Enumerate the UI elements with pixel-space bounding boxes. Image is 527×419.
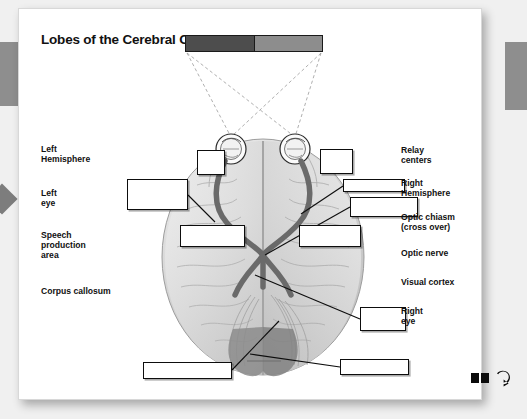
label-left-hemisphere: Left Hemisphere (41, 144, 90, 164)
label-right-eye: Right eye (401, 306, 423, 326)
drop-box-2[interactable] (320, 149, 353, 174)
drop-box-4[interactable] (343, 179, 405, 192)
drop-box-10[interactable] (340, 359, 409, 375)
slide-card: Lobes of the Cerebral Cortex (18, 8, 482, 400)
decorative-right-bar (505, 42, 527, 110)
label-optic-chiasm: Optic chiasm (cross over) (401, 212, 455, 232)
label-left-eye: Left eye (41, 188, 57, 208)
drop-box-8[interactable] (360, 307, 406, 331)
label-visual-cortex: Visual cortex (401, 277, 454, 287)
label-corpus-callosum: Corpus callosum (41, 286, 111, 296)
drop-box-1[interactable] (197, 150, 225, 175)
stop-icon[interactable] (471, 373, 490, 383)
drop-box-9[interactable] (143, 362, 232, 379)
drop-box-7[interactable] (299, 225, 361, 247)
drop-box-3[interactable] (127, 179, 188, 210)
playback-controls (471, 369, 513, 387)
replay-arrow-icon[interactable] (495, 369, 511, 387)
label-relay-centers: Relay centers (401, 145, 432, 165)
label-optic-nerve: Optic nerve (401, 248, 448, 258)
label-right-hemisphere: Right Hemisphere (401, 178, 450, 198)
label-speech-production: Speech production area (41, 230, 86, 260)
drop-box-6[interactable] (180, 225, 245, 247)
